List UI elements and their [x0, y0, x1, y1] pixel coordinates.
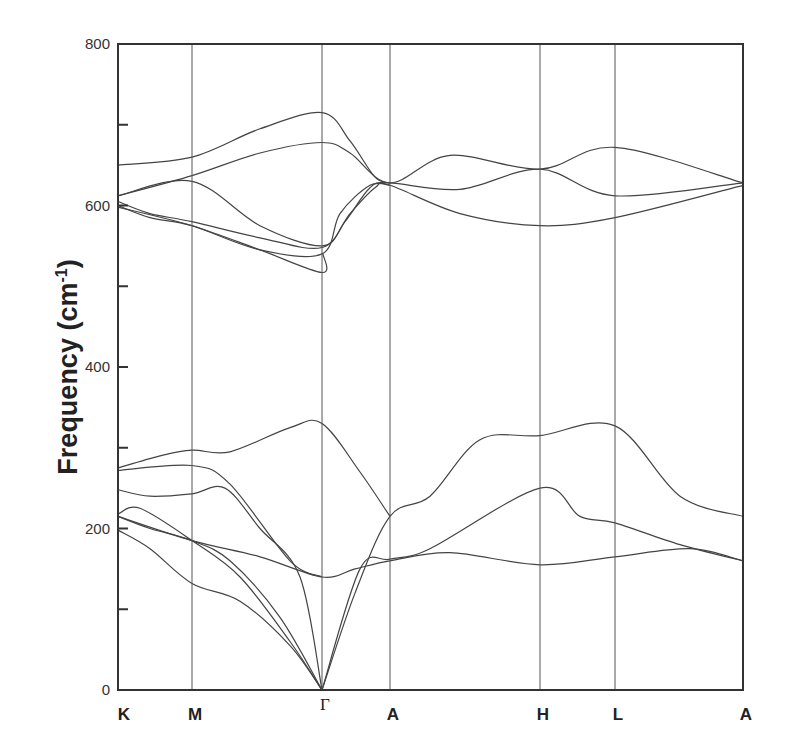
dispersion-branches — [118, 112, 743, 690]
y-tick-label: 800 — [85, 35, 110, 52]
branch-acoustic-1 — [118, 530, 322, 690]
branch-acoustic-3 — [118, 507, 322, 690]
y-tick-label: 200 — [85, 520, 110, 537]
phonon-dispersion-chart: 0200400600800 KMΓAHLA Frequency (cm-1) — [0, 0, 787, 753]
kpoint-label: Γ — [320, 695, 330, 714]
kpoint-label: A — [740, 705, 752, 724]
branch-high-3 — [118, 169, 743, 246]
y-axis-label: Frequency (cm-1) — [53, 259, 83, 474]
y-tick-label: 600 — [85, 197, 110, 214]
y-tick-label: 400 — [85, 358, 110, 375]
branch-low-rise-1 — [322, 487, 743, 690]
y-tick-label: 0 — [102, 681, 110, 698]
kpoint-label: H — [537, 705, 549, 724]
branch-low-rise-2 — [322, 423, 743, 690]
branch-optic-low-1 — [118, 486, 322, 690]
plot-frame — [118, 44, 743, 690]
kpoint-label: K — [118, 705, 131, 724]
kpoint-label: A — [387, 705, 399, 724]
branch-high-4 — [118, 183, 743, 249]
branch-high-1 — [118, 112, 390, 183]
high-symmetry-lines — [192, 44, 615, 690]
branch-high-5 — [118, 183, 390, 256]
branch-low-top — [118, 420, 390, 516]
x-axis-kpoint-labels: KMΓAHLA — [118, 695, 752, 724]
kpoint-label: L — [613, 705, 623, 724]
branch-acoustic-2 — [118, 516, 322, 690]
y-axis-ticks: 0200400600800 — [85, 35, 128, 698]
branch-low-2 — [118, 516, 743, 577]
kpoint-label: M — [188, 705, 202, 724]
